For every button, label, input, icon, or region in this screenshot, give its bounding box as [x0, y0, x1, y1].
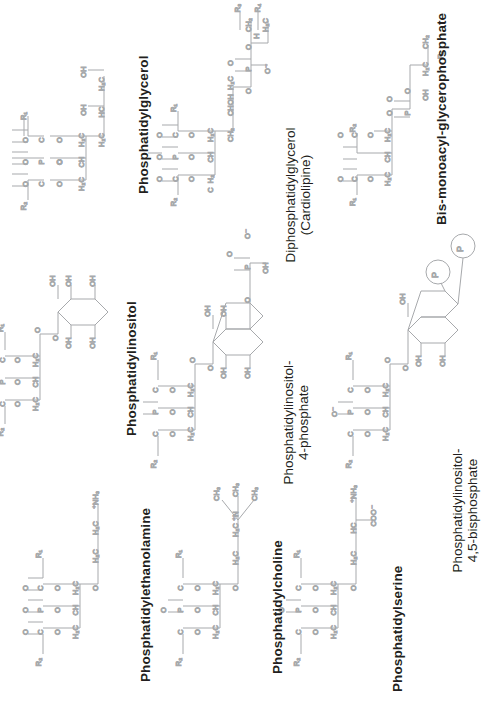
svg-text:O: O: [226, 60, 235, 66]
svg-text:HC: HC: [97, 106, 106, 117]
svg-text:R₁: R₁: [34, 550, 43, 558]
svg-text:R₁: R₁: [348, 198, 357, 206]
svg-text:CH₂: CH₂: [244, 18, 253, 32]
structure-bis-monoacyl-glycerophosphate: H₂C CH H₂C O O C C O O R₂ R₁ O P O O OH …: [336, 35, 445, 206]
svg-text:O: O: [21, 629, 30, 635]
svg-text:O: O: [385, 110, 394, 116]
svg-text:O: O: [187, 154, 196, 160]
svg-text:C: C: [0, 401, 7, 407]
label-phosphatidylcholine: Phosphatidylcholine: [270, 540, 285, 674]
svg-text:⁺NH₃: ⁺NH₃: [91, 491, 100, 509]
svg-text:OH: OH: [398, 293, 407, 304]
svg-text:P: P: [176, 607, 185, 612]
svg-text:O: O: [244, 44, 253, 50]
svg-text:C: C: [176, 629, 185, 635]
svg-text:O: O: [363, 431, 372, 437]
svg-text:O: O: [91, 585, 100, 591]
svg-text:O: O: [231, 585, 240, 591]
svg-text:OH: OH: [64, 275, 73, 286]
svg-text:P: P: [0, 379, 7, 384]
svg-text:P: P: [346, 409, 355, 414]
svg-text:R₁: R₁: [344, 352, 353, 360]
svg-text:R₂: R₂: [348, 124, 357, 132]
svg-text:O: O: [193, 585, 202, 591]
svg-text:O⁻: O⁻: [243, 229, 252, 239]
svg-text:O: O: [55, 159, 64, 165]
label-line-1: Phosphatidylinositol-: [281, 361, 296, 485]
label-phosphatidylserine: Phosphatidylserine: [390, 566, 405, 692]
svg-text:CH₃: CH₃: [250, 487, 259, 501]
svg-text:H₂C: H₂C: [261, 18, 270, 32]
svg-text:OH: OH: [414, 355, 423, 366]
svg-text:O: O: [21, 159, 30, 165]
svg-text:CH: CH: [206, 152, 215, 163]
svg-text:O: O: [21, 137, 30, 143]
svg-text:O: O: [21, 181, 30, 187]
svg-text:O: O: [53, 607, 62, 613]
svg-text:O: O: [21, 585, 30, 591]
svg-text:P: P: [294, 607, 303, 612]
structure-phosphatidylcholine: H₂C CH H₂C O O O C C P O R₁ R₂ O H₂C H₂C…: [159, 483, 259, 666]
svg-text:R₁: R₁: [174, 550, 183, 558]
svg-text:OH: OH: [203, 305, 212, 316]
svg-text:P: P: [455, 246, 465, 252]
svg-text:P: P: [171, 154, 180, 159]
svg-text:O: O: [21, 607, 30, 613]
svg-text:CH: CH: [186, 407, 195, 418]
label-phosphatidylinositol-4-5-bisphosphate: Phosphatidylinositol- 4,5-bisphosphate: [450, 423, 480, 598]
structure-phosphatidylinositol: H₂C CH H₂C O O O C C P R₁ R₂ O O OH OH O…: [0, 275, 108, 436]
label-line-2: 4,5-bisphosphate: [465, 459, 480, 563]
svg-text:H₂: H₂: [206, 175, 215, 183]
svg-text:H₂C: H₂C: [231, 523, 240, 537]
svg-text:C: C: [294, 629, 303, 635]
label-bis-monoacyl-glycerophosphate: Bis-monoacyl-glycerophosphate: [434, 13, 449, 225]
svg-text:C: C: [171, 132, 180, 138]
svg-text:O: O: [155, 176, 164, 182]
svg-text:O: O: [244, 88, 253, 94]
svg-text:O⁻: O⁻: [263, 64, 272, 74]
svg-text:C: C: [36, 585, 45, 591]
svg-text:O: O: [193, 629, 202, 635]
svg-text:P: P: [430, 272, 440, 278]
svg-text:R₁: R₁: [149, 352, 158, 360]
svg-text:CH₃: CH₃: [212, 487, 221, 501]
svg-text:C: C: [37, 181, 46, 187]
svg-text:O: O: [311, 607, 320, 613]
label-line-2: (Cardiolipine): [298, 155, 313, 235]
svg-text:H₂C: H₂C: [383, 172, 392, 186]
svg-text:R₂: R₂: [0, 428, 5, 436]
svg-text:C: C: [294, 585, 303, 591]
svg-text:H: H: [252, 33, 261, 38]
svg-text:H₂C: H₂C: [31, 397, 40, 411]
svg-text:O: O: [363, 387, 372, 393]
structure-phosphatidylinositol-4-phosphate: H₂C CH H₂C O O O C C P R₁ R₂ O O OH OH O…: [143, 229, 270, 468]
svg-text:R₁: R₁: [292, 550, 301, 558]
svg-text:P: P: [403, 110, 412, 115]
svg-text:C: C: [0, 357, 7, 363]
svg-text:H₂C: H₂C: [71, 581, 80, 595]
svg-text:CH: CH: [31, 377, 40, 388]
svg-text:CH: CH: [77, 157, 86, 168]
svg-text:P: P: [151, 409, 160, 414]
svg-text:R₂: R₂: [174, 658, 183, 666]
svg-text:H₂C: H₂C: [211, 625, 220, 639]
svg-text:P: P: [244, 66, 253, 71]
svg-text:O: O: [33, 327, 42, 333]
svg-text:H₂C: H₂C: [381, 427, 390, 441]
svg-text:OH: OH: [219, 367, 228, 378]
svg-text:H₂C: H₂C: [186, 427, 195, 441]
svg-text:OH: OH: [64, 337, 73, 348]
svg-text:R₁: R₁: [0, 324, 5, 332]
svg-text:H₂C: H₂C: [31, 353, 40, 367]
svg-text:O: O: [13, 401, 22, 407]
svg-text:O: O: [55, 137, 64, 143]
svg-text:H₂C: H₂C: [77, 177, 86, 191]
svg-text:C: C: [206, 187, 215, 193]
svg-text:C: C: [346, 431, 355, 437]
svg-text:R₂: R₂: [19, 202, 28, 210]
svg-text:R₂: R₂: [149, 460, 158, 468]
svg-text:O: O: [13, 357, 22, 363]
svg-text:O: O: [366, 176, 375, 182]
svg-text:OH: OH: [438, 355, 447, 366]
svg-text:C: C: [36, 629, 45, 635]
